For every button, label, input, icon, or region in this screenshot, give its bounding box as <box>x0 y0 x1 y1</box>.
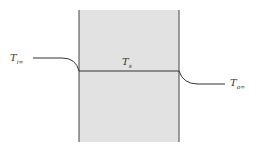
diagram-canvas <box>0 0 259 146</box>
outer-fluid-temp-label: To∞ <box>230 77 245 90</box>
outer-temp-curve <box>179 71 225 84</box>
inner-temp-curve <box>33 58 79 71</box>
inner-fluid-temp-label: Ti∞ <box>10 52 24 65</box>
surface-temp-label: Ts <box>122 56 132 69</box>
wall-region <box>79 10 179 142</box>
